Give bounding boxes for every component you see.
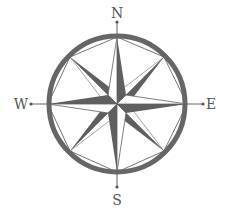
compass-rose: N S W E <box>0 0 228 215</box>
north-arm-dark <box>117 37 126 104</box>
south-dot <box>115 185 118 188</box>
label-east: E <box>206 96 216 112</box>
label-west: W <box>14 96 29 112</box>
south-arm-light <box>117 104 126 172</box>
east-arm-light <box>117 95 187 104</box>
east-dot <box>201 102 204 105</box>
east-arm-dark <box>117 104 187 113</box>
label-south: S <box>112 192 122 208</box>
north-arm-light <box>108 37 117 104</box>
label-north: N <box>111 5 123 21</box>
south-arm-dark <box>108 104 117 172</box>
west-dot <box>29 102 32 105</box>
west-arm-dark <box>48 95 117 104</box>
west-arm-light <box>48 104 117 113</box>
